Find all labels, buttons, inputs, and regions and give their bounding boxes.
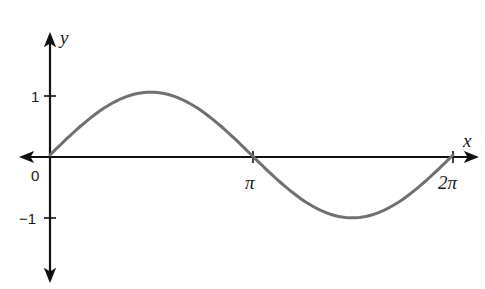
x-axis-label: x xyxy=(463,131,471,150)
x-tick-label-pi: π xyxy=(245,173,255,192)
y-tick-label-neg1: −1 xyxy=(19,211,36,226)
x-tick-label-2pi: 2π xyxy=(438,173,457,192)
sine-graph xyxy=(0,0,485,289)
y-axis-label: y xyxy=(60,28,68,47)
origin-label: 0 xyxy=(31,168,39,183)
y-tick-label-1: 1 xyxy=(31,89,39,104)
sine-curve xyxy=(50,92,453,218)
